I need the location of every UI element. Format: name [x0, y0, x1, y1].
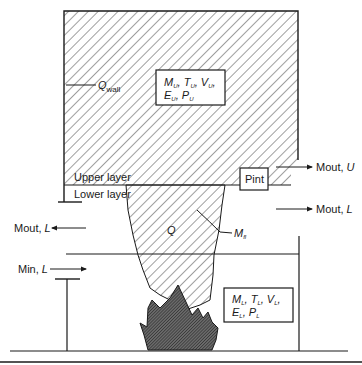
lower-state-line1: ML, TL, VL,: [232, 293, 281, 306]
min-l-label: Min, L: [18, 263, 48, 275]
lower-layer-label: Lower layer: [74, 188, 131, 200]
mout-l-right-label: Mout, L: [316, 203, 353, 215]
mout-u-label: Mout, U: [316, 161, 355, 173]
fire-zone-diagram: MU, TU, VU, EU, PU Qwall Upper layer Low…: [0, 0, 362, 365]
upper-state-line1: MU, TU, VU,: [164, 76, 216, 89]
pint-label: Pint: [245, 173, 264, 185]
lower-state-line2: EL, PL: [232, 306, 260, 319]
m-plume-label: Mfl: [234, 227, 247, 240]
plume-q-label: Q: [167, 224, 176, 236]
mout-l-left-label: Mout, L: [14, 222, 51, 234]
upper-layer-label: Upper layer: [74, 171, 131, 183]
